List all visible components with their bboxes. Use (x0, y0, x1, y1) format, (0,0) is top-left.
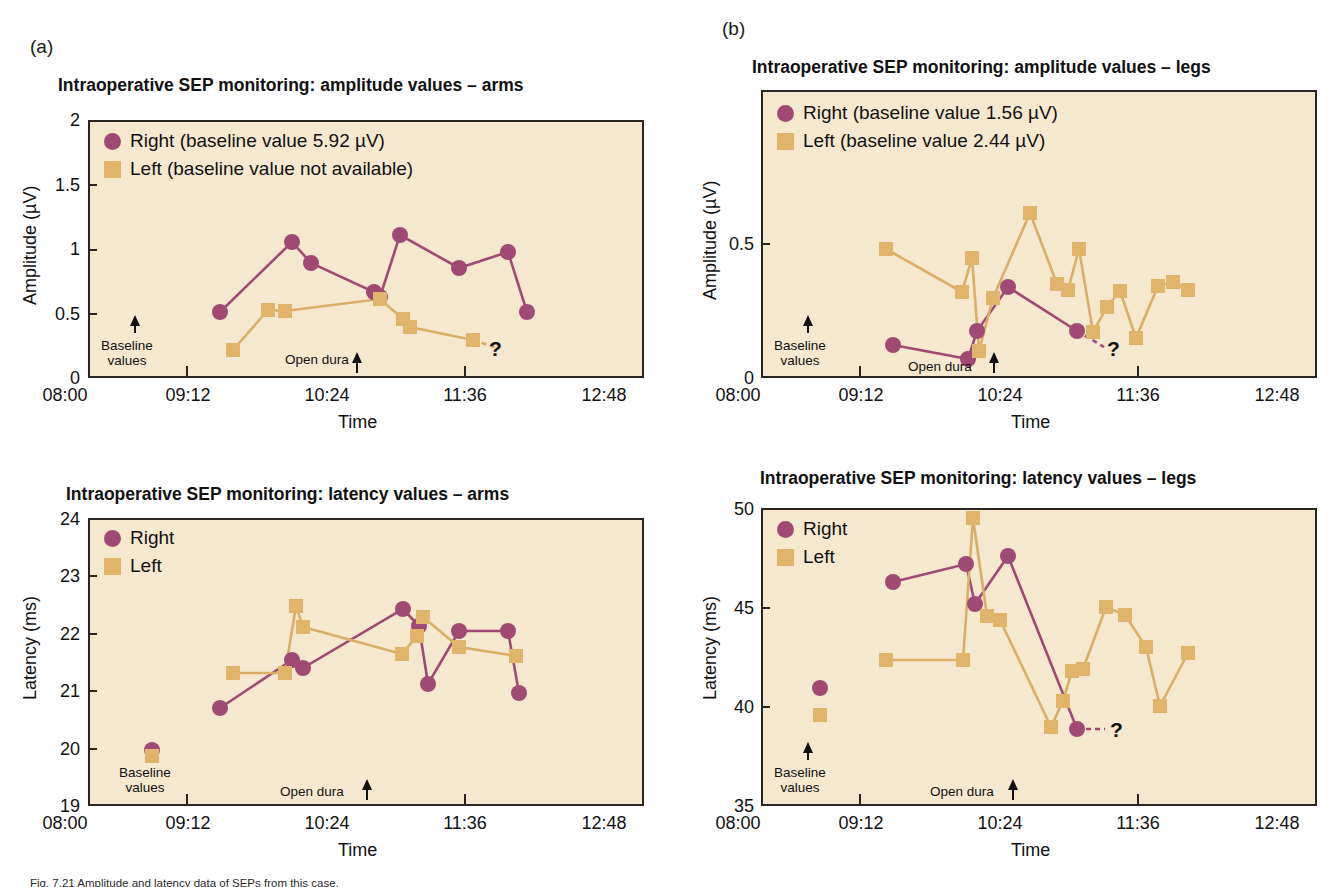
x-tick-mark (1137, 794, 1139, 805)
baseline-points (812, 680, 828, 722)
figure-caption: Fig. 7.21 Amplitude and latency data of … (30, 876, 1320, 887)
baseline-arrow-stem (807, 751, 809, 760)
x-tick-label: 11:36 (1098, 813, 1178, 834)
x-axis-label: Time (1011, 840, 1050, 861)
question-mark-annotation: ? (1110, 718, 1123, 742)
open-dura-arrow-stem (1012, 788, 1014, 800)
x-tick-label: 08:00 (698, 813, 778, 834)
series-plot (0, 0, 1342, 887)
x-tick-label: 10:24 (960, 813, 1040, 834)
x-tick-label: 09:12 (821, 813, 901, 834)
open-dura-annotation: Open dura (930, 784, 994, 799)
x-tick-mark (859, 794, 861, 805)
x-tick-label: 12:48 (1237, 813, 1317, 834)
baseline-annotation: Baseline values (774, 765, 826, 795)
